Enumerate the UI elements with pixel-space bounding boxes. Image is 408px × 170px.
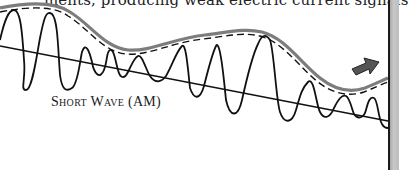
page-edge-bar (388, 0, 399, 170)
arrow-right-icon (352, 58, 379, 75)
short-wave-am-label: Short Wave (AM) (51, 94, 161, 110)
